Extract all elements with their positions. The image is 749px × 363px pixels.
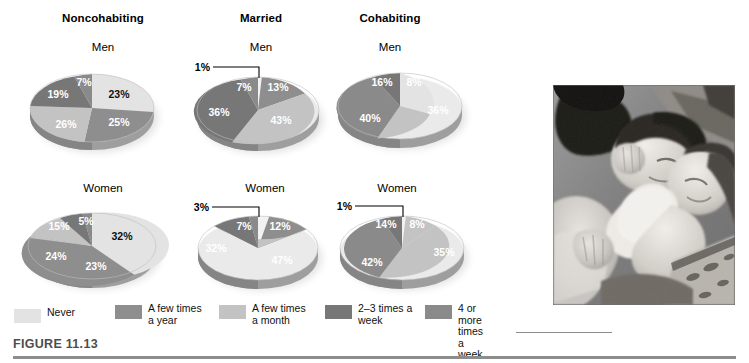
pie-label-2-3-week: 19%: [47, 88, 69, 100]
column-title-married: Married: [186, 12, 336, 24]
legend-label-few-times-a-year: A few times a year: [148, 303, 202, 326]
pie-chart-cohabiting-men: 8% 36% 40% 16%: [318, 58, 488, 158]
legend-item-4-or-more-times-a-week: 4 or more times a week: [425, 303, 484, 361]
pie-label-2-3-week: 15%: [48, 220, 70, 232]
pie-callout-line: [212, 207, 259, 217]
pie-label-few-month: 47%: [271, 254, 293, 266]
row-title-married-men: Men: [186, 41, 336, 53]
pie-label-few-month: 35%: [433, 246, 455, 258]
pie-label-few-month: 26%: [55, 118, 77, 130]
column-title-noncohabiting: Noncohabiting: [28, 12, 178, 24]
figure-caption: FIGURE 11.13: [13, 337, 98, 351]
pie-label-2-3-week: 36%: [208, 106, 230, 118]
pie-label-4-more: 14%: [375, 218, 397, 230]
legend-item-never: Never: [14, 307, 75, 323]
legend-swatch-4-or-more-times-a-week: [425, 305, 452, 319]
legend-swatch-never: [14, 309, 41, 323]
pie-callout-label-3pct: 3%: [194, 201, 210, 213]
legend-swatch-2-3-times-a-week: [325, 305, 352, 319]
figure-photo: [553, 85, 735, 305]
pie-label-never: 23%: [108, 88, 130, 100]
pie-callout-label-1pct: 1%: [337, 200, 353, 212]
legend-item-few-times-a-year: A few times a year: [115, 303, 202, 326]
pie-label-4-more: 7%: [236, 220, 252, 232]
pie-label-few-year: 25%: [108, 116, 130, 128]
legend: Never A few times a year A few times a m…: [14, 303, 484, 337]
pie-callout-line: [355, 206, 403, 217]
pie-chart-cohabiting-women: 1% 8% 35% 42% 14%: [322, 198, 492, 298]
row-title-noncohabiting-women: Women: [28, 182, 178, 194]
photo-credit-rule: [516, 332, 612, 333]
pie-label-few-month: 24%: [45, 250, 67, 262]
pie-label-few-year: 12%: [269, 220, 291, 232]
pie-label-2-3-week: 40%: [359, 112, 381, 124]
pie-label-few-year: 8%: [409, 218, 425, 230]
legend-swatch-few-times-a-year: [115, 305, 142, 319]
column-title-cohabiting: Cohabiting: [315, 12, 465, 24]
pie-label-few-year: 23%: [85, 260, 107, 272]
row-title-noncohabiting-men: Men: [28, 41, 178, 53]
pie-chart-noncohabiting-women: 32% 23% 24% 15% 5%: [14, 198, 174, 298]
legend-label-2-3-times-a-week: 2–3 times a week: [358, 303, 412, 326]
pie-label-4-more: 7%: [76, 76, 92, 88]
pie-label-few-year: 13%: [267, 81, 289, 93]
legend-item-2-3-times-a-week: 2–3 times a week: [325, 303, 412, 326]
figure-rule: [13, 356, 736, 359]
legend-label-never: Never: [47, 307, 75, 319]
pie-label-2-3-week: 32%: [205, 242, 227, 254]
figure-11-13: Noncohabiting Married Cohabiting Men Men…: [0, 0, 749, 363]
pie-label-never: 8%: [406, 76, 422, 88]
pie-label-few-year: 36%: [427, 104, 449, 116]
legend-label-4-or-more-times-a-week: 4 or more times a week: [458, 303, 484, 361]
pie-label-4-more: 5%: [78, 215, 94, 227]
row-title-cohabiting-men: Men: [315, 41, 465, 53]
legend-item-few-times-a-month: A few times a month: [219, 303, 306, 326]
pie-label-4-more: 7%: [236, 81, 252, 93]
pie-label-4-more: 16%: [371, 76, 393, 88]
legend-swatch-few-times-a-month: [219, 305, 246, 319]
legend-label-few-times-a-month: A few times a month: [252, 303, 306, 326]
pie-label-few-month: 43%: [270, 114, 292, 126]
pie-callout-line: [213, 67, 259, 78]
pie-label-2-3-week: 42%: [361, 256, 383, 268]
row-title-cohabiting-women: Women: [322, 182, 472, 194]
row-title-married-women: Women: [190, 182, 340, 194]
pie-callout-label-1pct: 1%: [195, 61, 211, 73]
pie-label-never: 32%: [111, 230, 133, 242]
pie-chart-noncohabiting-men: 23% 25% 26% 19% 7%: [14, 58, 174, 158]
